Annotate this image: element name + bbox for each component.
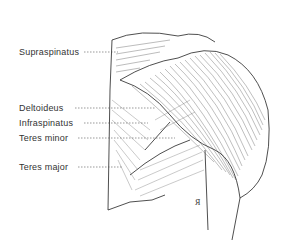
label-deltoideus: Deltoideus (19, 103, 64, 113)
label-infraspinatus: Infraspinatus (19, 118, 73, 128)
label-teres-minor: Teres minor (19, 133, 68, 143)
label-teres-major: Teres major (19, 162, 68, 172)
artist-signature: Я (195, 198, 201, 207)
label-supraspinatus: Supraspinatus (19, 47, 79, 57)
anatomy-figure: Я Supraspinatus Deltoideus Infraspinatus… (0, 0, 285, 244)
